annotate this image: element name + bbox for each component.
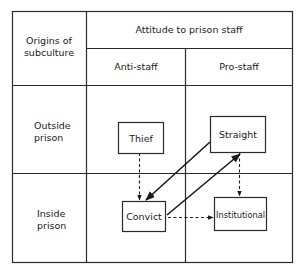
node-institutional-label: Institutional [216,209,265,220]
node-thief: Thief [119,123,164,154]
node-straight: Straight [211,117,266,153]
node-straight-label: Straight [219,129,257,140]
column-header-anti-staff: Anti-staff [114,61,158,72]
column-group-header: Attitude to prison staff [135,24,242,35]
row-header-outside-line-1: Outside [34,120,71,131]
node-convict: Convict [123,202,166,232]
corner-header-line-1: Origins of [26,35,72,46]
row-header-inside-prison: Inside prison [37,208,66,231]
node-thief-label: Thief [128,133,153,144]
corner-header: Origins of subculture [24,35,74,58]
prison-subculture-diagram: Origins of subculture Attitude to prison… [0,0,299,270]
row-header-inside-line-1: Inside [37,208,65,219]
row-header-outside-prison: Outside prison [34,120,71,143]
row-header-outside-line-2: prison [34,132,63,143]
column-header-pro-staff: Pro-staff [219,61,259,72]
node-institutional: Institutional [215,198,267,231]
corner-header-line-2: subculture [24,47,74,58]
row-header-inside-line-2: prison [37,220,66,231]
node-convict-label: Convict [126,211,162,222]
